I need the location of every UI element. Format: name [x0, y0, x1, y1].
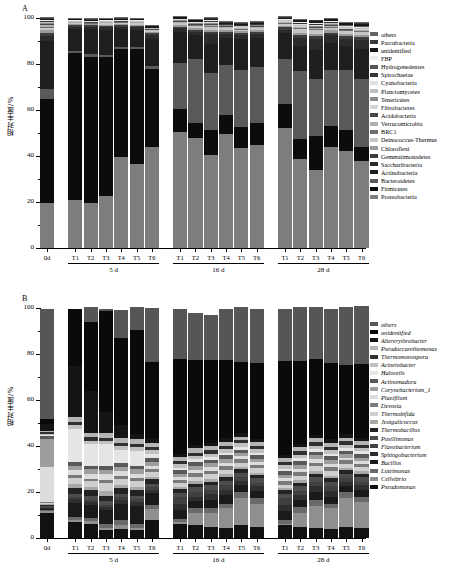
bar-segment: [114, 338, 128, 425]
x-tick-label: T6: [351, 544, 373, 551]
bar-segment: [145, 520, 159, 538]
legend-swatch: [370, 40, 378, 44]
bar-segment: [278, 361, 292, 455]
legend-swatch: [370, 355, 378, 359]
stacked-bar: [234, 308, 248, 538]
bar-segment: [173, 497, 187, 504]
panel-b-x-axis: [40, 538, 366, 539]
legend-swatch: [370, 485, 378, 489]
legend-item: unidentified: [370, 328, 466, 336]
y-tick: [36, 538, 40, 539]
legend-item: Bacteroidetes: [370, 177, 466, 185]
x-tick-label: T6: [141, 254, 163, 261]
legend-item: Thermobacillus: [370, 426, 466, 434]
bar-segment: [145, 362, 159, 438]
legend-swatch: [370, 170, 378, 174]
panel-a-plot-area: [40, 18, 365, 248]
x-tick: [121, 539, 122, 542]
stacked-bar: [278, 308, 292, 538]
legend-label: Bacteroidetes: [381, 177, 415, 184]
stacked-bar: [293, 308, 307, 538]
bar-segment: [278, 59, 292, 104]
x-tick: [121, 249, 122, 252]
legend-swatch: [370, 379, 378, 383]
x-tick: [362, 539, 363, 542]
x-tick: [152, 539, 153, 542]
legend-label: Altererythrobacter: [381, 337, 427, 344]
bar-segment: [145, 39, 159, 67]
legend-label: Sphingobacterium: [381, 451, 426, 458]
legend-item: Fibrobacteres: [370, 103, 466, 111]
bar-segment: [309, 79, 323, 137]
group-label: 5 d: [68, 556, 159, 564]
bar-segment: [250, 309, 264, 363]
panel-b-plot-area: [40, 308, 365, 538]
bar-segment: [324, 363, 338, 439]
legend-swatch: [370, 187, 378, 191]
legend-item: Spirochaetae: [370, 71, 466, 79]
bar-segment: [114, 29, 128, 47]
y-tick-label: 0: [12, 534, 34, 541]
x-tick: [346, 539, 347, 542]
legend-label: Gemmatimonadetes: [381, 153, 431, 160]
legend-label: Thermomonospora: [381, 353, 428, 360]
stacked-bar: [130, 18, 144, 248]
legend-swatch: [370, 338, 378, 342]
bar-segment: [219, 360, 233, 438]
group-rule: [68, 553, 159, 554]
x-tick-label: 0d: [36, 544, 58, 551]
x-tick: [152, 249, 153, 252]
stacked-bar: [219, 308, 233, 538]
bar-segment: [354, 364, 368, 438]
bar-segment: [278, 33, 292, 59]
bar-segment: [188, 313, 202, 360]
bar-segment: [84, 444, 98, 466]
stacked-bar: [204, 308, 218, 538]
bar-segment: [354, 502, 368, 527]
stacked-bar: [68, 18, 82, 248]
legend-label: Cyanobacteria: [381, 79, 417, 86]
bar-segment: [145, 493, 159, 505]
bar-segment: [173, 132, 187, 248]
legend-label: Bacillus: [381, 459, 401, 466]
legend-label: unidentified: [381, 329, 411, 336]
bar-segment: [250, 527, 264, 539]
stacked-bar: [130, 308, 144, 538]
y-tick-label: 80: [12, 350, 34, 357]
stacked-bar: [145, 308, 159, 538]
bar-segment: [293, 361, 307, 444]
stacked-bar: [145, 18, 159, 248]
legend-item: Actinobacteria: [370, 168, 466, 176]
group-rule: [278, 263, 369, 264]
stacked-bar: [250, 308, 264, 538]
bar-segment: [114, 529, 128, 538]
bar-segment: [130, 451, 144, 466]
stacked-bar: [84, 308, 98, 538]
legend-item: Hydrogenedentes: [370, 63, 466, 71]
bar-segment: [219, 528, 233, 538]
figure-root: A 相对丰度/% othersParcubacteriaunidentified…: [0, 0, 468, 579]
bar-segment: [188, 35, 202, 59]
bar-segment: [130, 30, 144, 47]
legend-swatch: [370, 179, 378, 183]
x-tick: [106, 249, 107, 252]
bar-segment: [219, 309, 233, 360]
bar-segment: [204, 315, 218, 360]
bar-segment: [309, 528, 323, 538]
stacked-bar: [99, 308, 113, 538]
bar-segment: [250, 67, 264, 122]
legend-label: BRC1: [381, 128, 396, 135]
legend-label: others: [381, 31, 396, 38]
bar-segment: [293, 527, 307, 539]
bar-segment: [84, 322, 98, 391]
group-rule: [278, 553, 369, 554]
legend-item: Verrucomicrobia: [370, 120, 466, 128]
group-label: 28 d: [278, 556, 369, 564]
bar-segment: [99, 444, 113, 466]
bar-segment: [68, 53, 82, 200]
stacked-bar: [204, 18, 218, 248]
x-tick: [47, 249, 48, 252]
bar-segment: [250, 491, 264, 498]
panel-a-x-axis: [40, 248, 366, 249]
bar-segment: [40, 89, 54, 98]
